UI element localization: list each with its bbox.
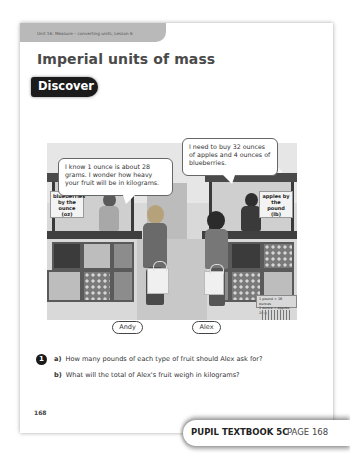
alex-head bbox=[207, 211, 225, 230]
vendor-right-head bbox=[245, 193, 258, 207]
conversion-note: 1 pound = 16 ounces 1 ounce = approx. 28… bbox=[256, 295, 297, 308]
conversion-line: 1 pound = 16 ounces bbox=[259, 297, 294, 306]
page-label: PAGE 168 bbox=[287, 427, 328, 437]
crate-blueberries bbox=[52, 242, 82, 270]
discover-label: Discover bbox=[38, 79, 94, 93]
andy-bag bbox=[147, 268, 169, 294]
vendor-right-body bbox=[241, 206, 261, 231]
alex-body bbox=[205, 229, 228, 269]
apples-sign: apples by the pound (lb) bbox=[259, 191, 293, 218]
unit-header-band: Unit 16: Measure – converting units, Les… bbox=[20, 23, 166, 42]
name-tag-andy: Andy bbox=[112, 321, 143, 334]
name-tag-alex: Alex bbox=[192, 321, 221, 334]
andy-speech-bubble: I know 1 ounce is about 28 grams. I wond… bbox=[58, 158, 173, 196]
sign-line: by the ounce bbox=[53, 199, 81, 211]
book-label: PUPIL TEXTBOOK 5C bbox=[191, 427, 288, 437]
page-title: Imperial units of mass bbox=[37, 51, 215, 67]
vendor-left-body bbox=[99, 206, 119, 231]
question-part-a: a)How many pounds of each type of fruit … bbox=[54, 355, 263, 363]
footer-page-tab: PUPIL TEXTBOOK 5C PAGE 168 bbox=[183, 420, 350, 446]
left-counter bbox=[47, 231, 142, 239]
crate bbox=[82, 270, 112, 302]
alex-speech-bubble: I need to buy 32 ounces of apples and 4 … bbox=[182, 138, 278, 176]
question-part-b: b)What will the total of Alex's fruit we… bbox=[54, 371, 240, 379]
page-number: 168 bbox=[34, 409, 47, 416]
unit-label: Unit 16: Measure – converting units, Les… bbox=[37, 31, 133, 36]
textbook-page: Unit 16: Measure – converting units, Les… bbox=[20, 23, 333, 433]
crate bbox=[82, 242, 112, 270]
part-text: What will the total of Alex's fruit weig… bbox=[66, 371, 240, 379]
crate bbox=[112, 242, 134, 270]
crate bbox=[47, 270, 82, 302]
part-label: a) bbox=[54, 355, 61, 363]
andy-head bbox=[147, 205, 164, 224]
sign-line: (lb) bbox=[262, 211, 290, 217]
part-text: How many pounds of each type of fruit sh… bbox=[65, 355, 262, 363]
crate-apples bbox=[262, 242, 294, 270]
sign-line: the pound bbox=[262, 199, 290, 211]
discover-badge: Discover bbox=[31, 77, 98, 97]
part-label: b) bbox=[54, 371, 62, 379]
crate bbox=[230, 242, 262, 270]
crate bbox=[112, 270, 134, 302]
question-number: 1 bbox=[36, 354, 47, 365]
sign-line: (oz) bbox=[53, 211, 81, 217]
alex-bag bbox=[204, 271, 224, 295]
grass bbox=[262, 310, 292, 320]
